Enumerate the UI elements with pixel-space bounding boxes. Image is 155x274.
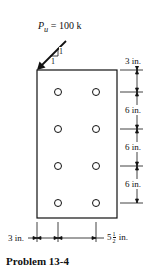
load-label: Pu = 100 k xyxy=(38,21,81,35)
edge-distance-bottom-label: 3 in. xyxy=(8,233,24,243)
pitch-label-2: 6 in. xyxy=(125,142,141,152)
edge-distance-top-label: 3 in. xyxy=(125,56,141,66)
pitch-label-3: 6 in. xyxy=(125,179,141,189)
slope-rise-label: 1 xyxy=(59,47,63,57)
gage-label: 512 in. xyxy=(107,231,128,244)
slope-run-label: 1 xyxy=(51,57,55,67)
horizontal-dimension-line xyxy=(28,222,104,242)
bolt-holes xyxy=(55,89,100,207)
figure-title: Problem 13-4 xyxy=(6,255,69,267)
pitch-label-1: 6 in. xyxy=(125,105,141,115)
figure: Pu = 100 k 1 1 3 in. 6 in. 6 in. 6 in. 3… xyxy=(0,0,155,274)
plate xyxy=(37,70,117,218)
